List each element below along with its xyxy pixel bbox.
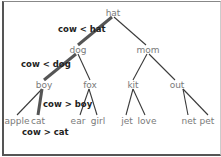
comparison-label-dog: cow < dog xyxy=(21,59,71,69)
node-ear: ear xyxy=(71,116,86,126)
edge-mom-kit xyxy=(133,54,147,80)
node-hat: hat xyxy=(106,8,121,18)
node-jet: jet xyxy=(120,116,133,126)
node-apple: apple xyxy=(5,116,30,126)
node-kit: kit xyxy=(127,80,139,90)
comparison-label-cat: cow > cat xyxy=(22,127,69,137)
edge-hat-mom xyxy=(114,17,146,45)
comparison-label-hat: cow < hat xyxy=(58,24,106,34)
node-fox: fox xyxy=(83,80,97,90)
edge-kit-jet xyxy=(126,89,133,115)
edge-kit-love xyxy=(133,89,145,115)
bst-diagram: hat dog mom boy fox kit out apple cat ea… xyxy=(0,0,221,157)
edge-mom-out xyxy=(149,54,175,80)
node-pet: pet xyxy=(200,116,215,126)
edge-dog-fox xyxy=(78,54,90,80)
node-girl: girl xyxy=(91,116,105,126)
node-cat: cat xyxy=(31,116,45,126)
node-boy: boy xyxy=(36,80,53,90)
node-out: out xyxy=(170,80,185,90)
node-dog: dog xyxy=(70,45,87,55)
node-mom: mom xyxy=(136,45,159,55)
node-net: net xyxy=(182,116,197,126)
node-love: love xyxy=(138,116,157,126)
comparison-label-boy: cow > boy xyxy=(43,99,93,109)
